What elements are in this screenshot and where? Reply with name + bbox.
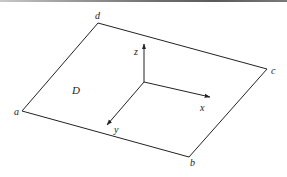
region-label-D: D [71,84,80,96]
axis-label-x: x [199,102,205,113]
vertex-label-b: b [190,157,195,168]
vertex-label-a: a [14,106,19,117]
vertex-label-d: d [95,10,101,21]
region-parallelogram [22,23,267,157]
axis-label-y: y [113,124,119,135]
diagram-canvas: a b c d D x y z [0,0,287,177]
y-axis-arrow [107,82,144,125]
x-axis-arrow [144,82,210,97]
axis-label-z: z [133,46,138,57]
vertex-label-c: c [271,65,276,76]
